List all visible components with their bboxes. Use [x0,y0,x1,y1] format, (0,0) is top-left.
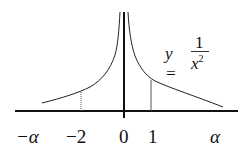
tick-label-alpha: α [210,127,220,146]
formula-lhs: y = [165,44,176,84]
formula-numerator: 1 [195,33,204,53]
formula-exponent: 2 [199,53,204,64]
tick-label-one: 1 [148,127,158,146]
fraction-bar [191,51,209,52]
formula-denominator-base: x [191,54,199,73]
formula-denominator: x2 [191,53,204,74]
curve-left-branch [42,12,120,103]
tick-label-neg-two: −2 [66,127,86,146]
tick-label-neg-alpha: −α [16,127,39,146]
tick-label-zero: 0 [119,127,129,146]
